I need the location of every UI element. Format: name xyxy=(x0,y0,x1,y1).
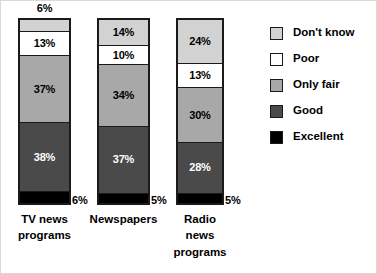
bar1-segment-dontknow xyxy=(20,20,69,31)
stacked-bar-chart-figure: 6% 13% 37% 38% 6% TV news programs xyxy=(0,0,377,274)
legend-label-only-fair: Only fair xyxy=(293,79,340,91)
legend-swatch-only-fair-icon xyxy=(270,79,283,92)
bar3-segment-poor: 13% xyxy=(178,63,222,87)
bar3-segment-good: 28% xyxy=(178,142,222,193)
bar1-poor-label: 13% xyxy=(34,38,55,49)
bar1-good-label: 38% xyxy=(34,152,55,163)
category-label-radio-news: Radio news programs xyxy=(140,211,260,260)
bar2-poor-label: 10% xyxy=(113,50,134,61)
legend-item-dont-know[interactable]: Don't know xyxy=(270,20,375,46)
legend-swatch-dont-know-icon xyxy=(270,27,283,40)
legend-swatch-poor-icon xyxy=(270,53,283,66)
bar3-segment-dontknow: 24% xyxy=(178,20,222,63)
chart-legend: Don't know Poor Only fair Good Excellent xyxy=(270,20,375,150)
legend-item-poor[interactable]: Poor xyxy=(270,46,375,72)
bar1-segment-poor: 13% xyxy=(20,31,69,55)
bar3-poor-label: 13% xyxy=(189,70,210,81)
bar2-onlyfair-label: 34% xyxy=(113,90,134,101)
bar3-segment-onlyfair: 30% xyxy=(178,87,222,142)
bar3-excellent-outside-label: 5% xyxy=(225,195,241,206)
bar1-onlyfair-label: 37% xyxy=(34,84,55,95)
bar2-segment-onlyfair: 34% xyxy=(99,64,148,126)
bar2-dontknow-label: 14% xyxy=(113,27,134,38)
legend-item-only-fair[interactable]: Only fair xyxy=(270,72,375,98)
bar2-segment-excellent: 5% xyxy=(99,193,148,203)
bar-tv-news[interactable]: 13% 37% 38% 6% xyxy=(18,18,71,205)
bar1-segment-excellent: 6% xyxy=(20,191,69,203)
bar3-dontknow-label: 24% xyxy=(189,36,210,47)
legend-label-excellent: Excellent xyxy=(293,131,344,143)
bar1-excellent-outside-label: 6% xyxy=(72,195,88,206)
bar1-segment-good: 38% xyxy=(20,122,69,191)
bar-group-tv-news: 6% 13% 37% 38% 6% TV news programs xyxy=(18,1,71,274)
plot-area: 6% 13% 37% 38% 6% TV news programs xyxy=(1,1,263,274)
bar2-segment-dontknow: 14% xyxy=(99,20,148,45)
legend-swatch-good-icon xyxy=(270,105,283,118)
legend-label-poor: Poor xyxy=(293,53,319,65)
bar1-dontknow-outside-label: 6% xyxy=(37,3,53,14)
bar-radio-news[interactable]: 24% 13% 30% 28% 5% xyxy=(176,18,224,205)
bar2-segment-poor: 10% xyxy=(99,45,148,64)
bar2-excellent-outside-label: 5% xyxy=(151,195,167,206)
bar3-good-label: 28% xyxy=(189,162,210,173)
legend-item-excellent[interactable]: Excellent xyxy=(270,124,375,150)
bar1-segment-onlyfair: 37% xyxy=(20,55,69,122)
bar-newspapers[interactable]: 14% 10% 34% 37% 5% xyxy=(97,18,150,205)
legend-swatch-excellent-icon xyxy=(270,131,283,144)
legend-label-dont-know: Don't know xyxy=(293,27,355,39)
bar2-segment-good: 37% xyxy=(99,126,148,193)
bar3-onlyfair-label: 30% xyxy=(189,110,210,121)
bar2-good-label: 37% xyxy=(113,154,134,165)
legend-item-good[interactable]: Good xyxy=(270,98,375,124)
legend-label-good: Good xyxy=(293,105,323,117)
bar-group-radio-news: 24% 13% 30% 28% 5% Radio news programs xyxy=(176,1,224,274)
bar3-segment-excellent: 5% xyxy=(178,193,222,203)
